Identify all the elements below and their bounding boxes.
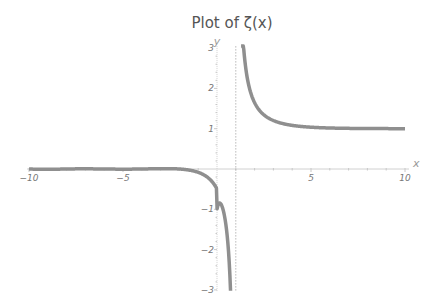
y-tick-label: −3 <box>201 285 215 295</box>
y-tick-label: −1 <box>201 204 214 214</box>
x-tick-label: −5 <box>116 173 130 183</box>
x-tick-label: −10 <box>20 173 39 183</box>
y-axis-label: y <box>213 35 221 48</box>
axes: −10−5510−3−2−1123xy <box>20 35 421 295</box>
y-tick-label: −2 <box>201 245 215 255</box>
chart-title: Plot of ζ(x) <box>191 14 272 32</box>
zeta-curve-left <box>29 169 231 291</box>
zeta-plot: Plot of ζ(x) −10−5510−3−2−1123xy <box>0 0 436 306</box>
y-tick-label: 2 <box>208 83 214 93</box>
y-tick-label: 1 <box>208 124 214 134</box>
x-tick-label: 10 <box>399 173 411 183</box>
x-axis-label: x <box>412 157 420 170</box>
zeta-curve-right <box>241 46 405 129</box>
x-tick-label: 5 <box>308 173 314 183</box>
